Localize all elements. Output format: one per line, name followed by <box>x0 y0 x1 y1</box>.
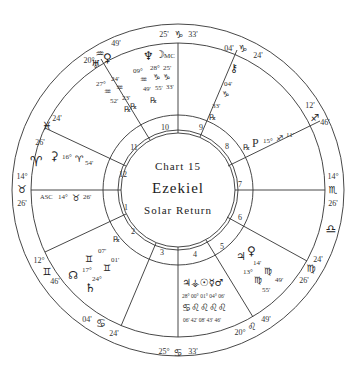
asc-min: 26' <box>83 193 91 201</box>
house-number-4: 4 <box>193 250 197 259</box>
node-deg: 17° <box>82 266 92 274</box>
house-number-11: 11 <box>130 143 138 152</box>
house-number-2: 2 <box>131 227 135 236</box>
chart-name: Ezekiel <box>152 180 204 196</box>
cusp-8-sign: ♐ <box>311 112 320 123</box>
mc-sign: ♑ <box>163 73 170 82</box>
chiron-deg: 04' <box>224 80 232 88</box>
venus-top-retro: ℞ <box>130 102 137 111</box>
stellium-signs: ♋♌♌♌♌ <box>182 302 227 313</box>
ceres-deg: 16° <box>62 153 72 161</box>
cusp-mc-deg: 25' <box>159 30 169 39</box>
cusp-9-min: 24' <box>253 51 263 60</box>
asc-sign: ♉ <box>72 193 80 203</box>
saturn-glyph: ♄ <box>85 281 96 295</box>
house-number-9: 9 <box>199 123 203 132</box>
cusp-asc-min: 26' <box>17 199 27 208</box>
cusp-6-sign: ♍ <box>307 263 316 274</box>
jupiter-deg: 13° <box>243 268 253 276</box>
cusp-12-min: 26' <box>35 138 45 147</box>
stellium-mins: 06' 42' 08' 43' 46' <box>183 317 221 323</box>
venus-top-min: 23' <box>122 94 130 102</box>
mc-deg: 25' <box>163 64 171 72</box>
cusp-8-min: 46' <box>320 118 330 127</box>
cusp-12-sign: ♓ <box>42 120 52 133</box>
ceres-sign: ♈ <box>75 154 84 164</box>
cusp-3-min: 24' <box>109 329 119 338</box>
asc-deg: 14° <box>58 193 68 201</box>
house-number-10: 10 <box>161 123 169 132</box>
uranus-min: 52' <box>110 97 118 105</box>
house-number-7: 7 <box>238 180 242 189</box>
venus-top-deg: 24' <box>111 75 119 83</box>
stellium-degs: 28° 00° 01° 04° 06' <box>182 293 225 299</box>
intercepted-aries: ♈ <box>30 153 43 169</box>
cusp-asc-sign: ♉ <box>17 183 27 196</box>
uranus-glyph: ♅ <box>91 58 101 71</box>
chart-subtitle: Solar Return <box>144 204 212 216</box>
venus-top-sign: ♒ <box>116 83 123 92</box>
cusp-mc-min: 33' <box>188 30 198 39</box>
cusp-line-3 <box>121 243 156 326</box>
cusp-dsc-deg: 14° <box>327 172 338 181</box>
chiron-sign: ♑ <box>222 90 229 99</box>
cusp-dsc-min: 26' <box>328 199 338 208</box>
cusp-5-min: 49' <box>261 315 271 324</box>
jupiter-glyph: ♃ <box>236 250 246 263</box>
chiron-min: 33' <box>212 102 220 110</box>
cusp-11-min: 49' <box>111 39 121 48</box>
moon-min: 55' <box>155 84 163 91</box>
venus-min: 49' <box>275 276 283 284</box>
house-number-6: 6 <box>238 213 242 222</box>
gemini-a-min: 07' <box>98 247 106 255</box>
uranus-sign: ♒ <box>104 87 111 96</box>
cusp-line-8 <box>228 121 320 166</box>
intercepted-libra: ♎ <box>326 222 337 236</box>
ceres-glyph: ⚳ <box>50 149 59 163</box>
chart-wheel: 1 2 3 4 5 6 7 8 9 10 11 12 Chart 15 Ezek… <box>0 0 357 377</box>
house-number-5: 5 <box>220 242 224 251</box>
node-sign: ♊ <box>103 263 111 273</box>
pluto-deg: 15° <box>263 137 273 145</box>
cusp-3-deg: 04' <box>82 315 92 324</box>
cusp-12-deg: 24' <box>52 114 62 123</box>
retro-h2: ℞ <box>113 235 120 244</box>
cusp-2-sign: ♊ <box>43 266 52 277</box>
jupiter-min: 55' <box>262 286 270 294</box>
cusp-asc-deg: 14° <box>16 172 27 181</box>
node-glyph: ☊ <box>68 269 78 282</box>
cusp-line-2 <box>45 214 126 252</box>
cusp-5-deg: 20° <box>234 328 245 337</box>
gemini-a-glyph: ♊ <box>85 254 93 264</box>
mc-label: MC <box>164 52 175 60</box>
house-number-8: 8 <box>225 142 229 151</box>
cusp-8-deg: 12' <box>305 101 315 110</box>
asc-label: ASC <box>40 193 53 200</box>
moon-deg: 28° <box>150 64 160 72</box>
venus-glyph: ♀ <box>247 244 256 258</box>
cusp-2-deg: 12° <box>33 256 44 265</box>
cusp-mc-sign: ♑ <box>175 29 184 40</box>
cusp-9-deg: 04' <box>224 44 234 53</box>
house-number-1: 1 <box>124 203 128 212</box>
stellium-glyphs: ♃⚶☉☿♂ <box>182 277 224 288</box>
mc-min: 33' <box>166 83 174 90</box>
venus-deg: 14' <box>253 259 261 267</box>
ceres-min: 54' <box>85 159 93 167</box>
pluto-glyph: P <box>252 136 259 150</box>
pluto-min: 11' <box>286 131 294 139</box>
cusp-dsc-sign: ♏ <box>329 184 338 195</box>
neptune-retro: ℞ <box>150 96 157 105</box>
jupiter-sign: ♍ <box>254 275 262 285</box>
pluto-retro: ℞ <box>243 143 250 152</box>
cusp-5-sign: ♌ <box>248 321 257 332</box>
venus-top-glyph: ♀ <box>103 51 112 65</box>
house-number-3: 3 <box>160 248 164 257</box>
neptune-deg: 09° <box>133 67 143 75</box>
venus-sign: ♍ <box>264 266 272 276</box>
moon-sign: ♑ <box>153 73 160 82</box>
cusp-ic-deg: 25° <box>158 347 169 356</box>
chiron-glyph: ⚷ <box>230 62 238 75</box>
cusp-ic-min: 33' <box>188 347 198 356</box>
neptune-sign: ♒ <box>140 75 147 84</box>
